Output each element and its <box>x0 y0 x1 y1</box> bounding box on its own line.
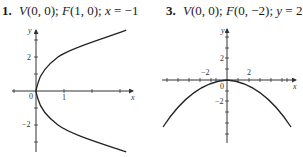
y-axis-label: y <box>27 26 32 35</box>
y-tick-label-2: 2 <box>27 53 31 62</box>
x-tick-label-1: 1 <box>62 93 66 102</box>
x-tick-label-2: 2 <box>247 68 251 77</box>
y-tick-label-2: 2 <box>220 54 224 63</box>
y-axis-label: y <box>220 26 225 35</box>
origin-label: 0 <box>220 82 224 91</box>
graph-1: y x 0 1 2 −2 <box>12 26 135 152</box>
graph-3: y x 0 −2 2 2 −2 <box>162 26 297 143</box>
origin-label: 0 <box>29 92 33 101</box>
x-tick-label-neg2: −2 <box>201 68 210 77</box>
y-tick-label-neg2: −2 <box>22 120 31 129</box>
y-tick-label-neg2: −2 <box>215 97 224 106</box>
graphs-canvas: y x 0 1 2 −2 <box>0 0 303 157</box>
x-axis-label: x <box>130 93 135 102</box>
x-axis-label: x <box>292 82 297 91</box>
